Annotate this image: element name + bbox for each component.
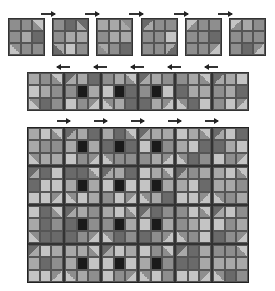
block-patch bbox=[88, 98, 100, 110]
block-patch bbox=[53, 31, 65, 43]
block-patch bbox=[213, 98, 225, 110]
quilt-block-3 bbox=[96, 18, 133, 56]
block-patch bbox=[77, 98, 89, 110]
block-patch bbox=[65, 19, 77, 31]
block-patch bbox=[97, 43, 109, 55]
block-patch bbox=[176, 98, 188, 110]
block-patch bbox=[97, 31, 109, 43]
block-patch bbox=[65, 98, 77, 110]
block-patch bbox=[32, 43, 44, 55]
quilt-block-1 bbox=[8, 18, 45, 56]
block-patch bbox=[40, 85, 52, 97]
block-patch bbox=[186, 31, 198, 43]
block-patch bbox=[198, 31, 210, 43]
block-patch bbox=[9, 19, 21, 31]
block-patch bbox=[125, 73, 137, 85]
block-patch bbox=[114, 98, 126, 110]
block-patch bbox=[77, 73, 89, 85]
block-patch bbox=[162, 85, 174, 97]
block-patch bbox=[188, 98, 200, 110]
pressing-arrow-right-icon bbox=[41, 13, 55, 15]
block-patch bbox=[120, 31, 132, 43]
pressing-arrow-right-icon bbox=[131, 120, 144, 122]
block-patch bbox=[199, 98, 211, 110]
block-patch bbox=[165, 31, 177, 43]
block-patch bbox=[230, 31, 242, 43]
block-patch bbox=[162, 73, 174, 85]
block-patch bbox=[32, 19, 44, 31]
row-strip-block-3 bbox=[101, 72, 138, 111]
block-patch bbox=[120, 43, 132, 55]
row-strip-block-4 bbox=[138, 72, 175, 111]
block-patch bbox=[28, 73, 40, 85]
block-patch bbox=[65, 85, 77, 97]
block-patch bbox=[109, 43, 121, 55]
block-patch bbox=[188, 85, 200, 97]
row-strip-block-6 bbox=[212, 72, 249, 111]
pressing-arrow-left-icon bbox=[94, 66, 107, 68]
pressing-arrow-right-icon bbox=[85, 13, 99, 15]
pressing-arrow-left-icon bbox=[131, 66, 144, 68]
block-patch bbox=[88, 73, 100, 85]
block-patch bbox=[76, 31, 88, 43]
block-patch bbox=[9, 43, 21, 55]
block-patch bbox=[176, 85, 188, 97]
block-patch bbox=[213, 73, 225, 85]
pressing-arrow-right-icon bbox=[218, 13, 232, 15]
block-patch bbox=[162, 98, 174, 110]
block-patch bbox=[225, 73, 237, 85]
block-patch bbox=[21, 43, 33, 55]
block-patch bbox=[21, 31, 33, 43]
block-patch bbox=[198, 43, 210, 55]
quilt-block-4 bbox=[141, 18, 178, 56]
block-patch bbox=[242, 31, 254, 43]
block-patch bbox=[151, 98, 163, 110]
block-patch bbox=[225, 85, 237, 97]
block-patch bbox=[28, 98, 40, 110]
block-patch bbox=[40, 73, 52, 85]
pressing-arrow-right-icon bbox=[94, 120, 107, 122]
pressing-arrow-left-icon bbox=[57, 66, 70, 68]
block-patch bbox=[213, 85, 225, 97]
pressing-arrow-right-icon bbox=[57, 120, 70, 122]
block-patch bbox=[40, 98, 52, 110]
block-patch bbox=[236, 73, 248, 85]
pressing-arrow-right-icon bbox=[174, 13, 188, 15]
pressing-arrow-left-icon bbox=[168, 66, 181, 68]
block-patch bbox=[32, 31, 44, 43]
block-patch bbox=[139, 98, 151, 110]
block-patch bbox=[142, 19, 154, 31]
block-patch bbox=[9, 31, 21, 43]
block-patch bbox=[230, 19, 242, 31]
pressing-arrow-right-icon bbox=[168, 120, 181, 122]
quilt-block-5 bbox=[185, 18, 222, 56]
block-patch bbox=[209, 31, 221, 43]
block-patch bbox=[65, 31, 77, 43]
block-patch bbox=[154, 43, 166, 55]
block-patch bbox=[186, 19, 198, 31]
block-patch bbox=[209, 43, 221, 55]
block-patch bbox=[186, 43, 198, 55]
block-patch bbox=[199, 85, 211, 97]
pressing-arrow-left-icon bbox=[205, 66, 218, 68]
block-patch bbox=[253, 43, 265, 55]
block-patch bbox=[120, 19, 132, 31]
block-patch bbox=[151, 85, 163, 97]
block-patch bbox=[53, 19, 65, 31]
block-patch bbox=[28, 85, 40, 97]
block-patch bbox=[53, 43, 65, 55]
block-patch bbox=[139, 73, 151, 85]
block-patch bbox=[102, 85, 114, 97]
block-patch bbox=[102, 98, 114, 110]
block-patch bbox=[125, 98, 137, 110]
block-patch bbox=[109, 31, 121, 43]
row-strip-block-1 bbox=[27, 72, 64, 111]
block-patch bbox=[139, 85, 151, 97]
block-patch bbox=[97, 19, 109, 31]
block-patch bbox=[242, 43, 254, 55]
row-strip-block-2 bbox=[64, 72, 101, 111]
block-patch bbox=[109, 19, 121, 31]
pressing-arrow-right-icon bbox=[129, 13, 143, 15]
block-patch bbox=[242, 19, 254, 31]
block-patch bbox=[253, 19, 265, 31]
